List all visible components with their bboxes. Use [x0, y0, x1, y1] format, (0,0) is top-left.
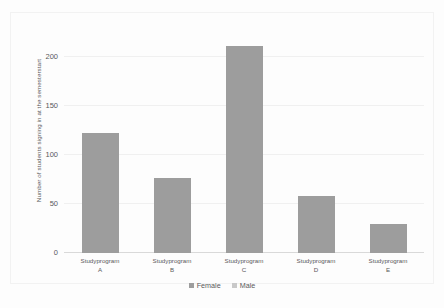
legend-item-male[interactable]: Male [232, 281, 256, 290]
bar-slot [280, 33, 352, 253]
bar[interactable] [298, 196, 335, 253]
chart-legend: FemaleMale [0, 281, 444, 290]
bar-slot [64, 33, 136, 253]
x-axis-label: StudyprogramD [280, 256, 352, 274]
x-axis-label-line: Studyprogram [208, 256, 280, 265]
x-axis-label: StudyprogramA [64, 256, 136, 274]
bar-slot [352, 33, 424, 253]
bar[interactable] [154, 178, 191, 253]
y-tick-label-150: 150 [45, 101, 58, 110]
bar-slot [136, 33, 208, 253]
y-tick-label-0: 0 [54, 248, 58, 257]
x-axis-label-line: D [280, 265, 352, 274]
x-axis-label-line: Studyprogram [136, 256, 208, 265]
bar[interactable] [82, 133, 119, 253]
x-axis-label-line: A [64, 265, 136, 274]
y-tick-label-100: 100 [45, 150, 58, 159]
y-tick-label-200: 200 [45, 52, 58, 61]
y-tick-label-50: 50 [50, 199, 58, 208]
x-axis-label-line: C [208, 265, 280, 274]
x-axis-label-line: B [136, 265, 208, 274]
x-axis-label: StudyprogramE [352, 256, 424, 274]
legend-swatch-icon [189, 283, 194, 288]
bar-chart: Number of students signing in at the sem… [0, 0, 444, 308]
bar-slot [208, 33, 280, 253]
legend-swatch-icon [232, 283, 237, 288]
y-axis-title: Number of students signing in at the sem… [35, 26, 42, 236]
x-axis-label: StudyprogramC [208, 256, 280, 274]
legend-item-female[interactable]: Female [189, 281, 221, 290]
x-axis-label-line: Studyprogram [64, 256, 136, 265]
plot-area: 050100150200 [64, 33, 424, 253]
legend-label: Male [240, 281, 256, 290]
bar[interactable] [226, 46, 263, 253]
bars-group [64, 33, 424, 253]
x-axis-label-line: Studyprogram [280, 256, 352, 265]
x-axis-label: StudyprogramB [136, 256, 208, 274]
bar[interactable] [370, 224, 407, 253]
x-axis-label-line: Studyprogram [352, 256, 424, 265]
legend-label: Female [197, 281, 221, 290]
x-axis-labels: StudyprogramAStudyprogramBStudyprogramCS… [64, 256, 424, 274]
x-axis-label-line: E [352, 265, 424, 274]
